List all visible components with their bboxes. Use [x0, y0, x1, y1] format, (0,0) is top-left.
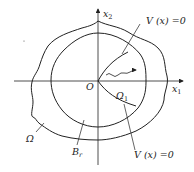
leader-bottom	[124, 104, 135, 150]
outer-region-boundary	[31, 21, 167, 140]
ball-label: Br	[71, 146, 83, 159]
curve-bottom-label: V (x) =0	[134, 149, 174, 160]
trajectory-wavy-arrow	[106, 70, 136, 77]
outer-region-label: Ω	[25, 133, 34, 144]
origin-label: O	[86, 81, 94, 92]
x1-axis-label: x1	[172, 83, 182, 96]
leader-top	[122, 24, 140, 54]
speck	[23, 40, 24, 41]
diagram-canvas: x2 x1 O V (x) =0 V (x) =0 Ω Br Ω1	[0, 0, 194, 172]
x2-axis-label: x2	[103, 8, 113, 21]
curve-top-label: V (x) =0	[146, 15, 186, 26]
